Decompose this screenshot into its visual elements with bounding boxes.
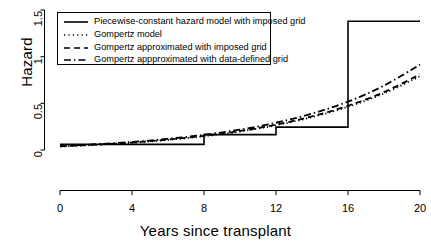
legend: Piecewise-constant hazard model with imp… [57,12,271,65]
legend-label-3: Gompertz appproximated with data-defined… [94,54,288,64]
x-axis [60,191,420,196]
legend-label-1: Gompertz model [94,29,162,39]
hazard-plot-figure: Hazard Years since transplant 0 0.5 1 1.… [0,0,431,244]
series-line-1 [60,76,420,146]
y-axis [41,10,45,150]
legend-label-0: Piecewise-constant hazard model with imp… [94,16,305,26]
legend-label-2: Gompertz approximated with imposed grid [94,42,267,52]
series-line-2 [60,74,420,146]
